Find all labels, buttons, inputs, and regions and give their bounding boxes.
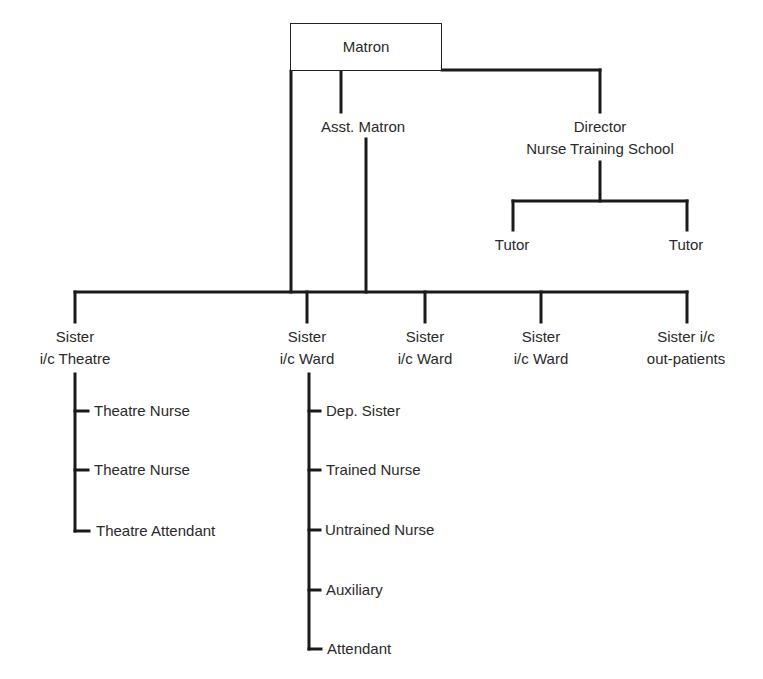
sister-ward-3-line2: i/c Ward (514, 348, 568, 370)
sister-ward-1: Sister i/c Ward (280, 326, 334, 370)
asst-matron-label: Asst. Matron (321, 116, 405, 138)
tutor-label-1: Tutor (495, 234, 529, 256)
ward-staff-4: Auxiliary (326, 579, 383, 601)
director-school: Nurse Training School (526, 138, 674, 160)
theatre-staff-2: Theatre Nurse (94, 459, 190, 481)
matron-label: Matron (343, 36, 390, 58)
sister-ward-1-line1: Sister (280, 326, 334, 348)
tutor-label-2: Tutor (669, 234, 703, 256)
ward-staff-5: Attendant (327, 638, 391, 660)
sister-ward-3-line1: Sister (514, 326, 568, 348)
sister-outpatients: Sister i/c out-patients (647, 326, 725, 370)
sister-theatre: Sister i/c Theatre (40, 326, 111, 370)
ward-staff-2: Trained Nurse (326, 459, 420, 481)
sister-ward-2-line2: i/c Ward (398, 348, 452, 370)
sister-theatre-line2: i/c Theatre (40, 348, 111, 370)
director-label: Director Nurse Training School (526, 116, 674, 160)
sister-outpatients-line1: Sister i/c (647, 326, 725, 348)
ward-staff-1: Dep. Sister (326, 400, 400, 422)
sister-ward-3: Sister i/c Ward (514, 326, 568, 370)
theatre-staff-1: Theatre Nurse (94, 400, 190, 422)
sister-ward-1-line2: i/c Ward (280, 348, 334, 370)
sister-theatre-line1: Sister (40, 326, 111, 348)
sister-ward-2-line1: Sister (398, 326, 452, 348)
ward-staff-3: Untrained Nurse (325, 519, 434, 541)
director-title: Director (526, 116, 674, 138)
sister-outpatients-line2: out-patients (647, 348, 725, 370)
sister-ward-2: Sister i/c Ward (398, 326, 452, 370)
org-chart: Matron Asst. Matron Director Nurse Train… (0, 0, 763, 679)
theatre-staff-3: Theatre Attendant (96, 520, 215, 542)
